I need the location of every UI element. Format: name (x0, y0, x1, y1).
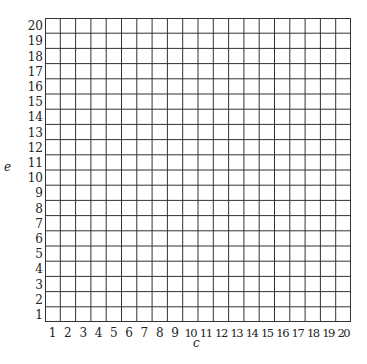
x-tick-label: 11 (198, 326, 213, 340)
x-tick-label: 17 (290, 326, 305, 340)
y-tick-label: 20 (23, 19, 43, 34)
y-tick-label: 4 (23, 262, 43, 277)
y-tick-label: 13 (23, 126, 43, 141)
y-tick-label: 2 (23, 293, 43, 308)
y-tick-label: 10 (23, 171, 43, 186)
x-tick-label: 13 (229, 326, 244, 340)
x-tick-label: 15 (259, 326, 274, 340)
y-tick-label: 5 (23, 247, 43, 262)
x-tick-label: 14 (244, 326, 259, 340)
y-tick-label: 14 (23, 110, 43, 125)
coordinate-grid (45, 18, 351, 322)
y-tick-label: 9 (23, 186, 43, 201)
x-tick-label: 7 (137, 326, 152, 340)
y-tick-label: 18 (23, 50, 43, 65)
x-axis-title: c (193, 336, 200, 350)
y-tick-label: 12 (23, 141, 43, 156)
x-tick-label: 5 (106, 326, 121, 340)
x-tick-label: 18 (305, 326, 320, 340)
x-tick-label: 12 (213, 326, 228, 340)
x-tick-label: 3 (76, 326, 91, 340)
y-tick-label: 1 (23, 308, 43, 323)
x-tick-label: 4 (91, 326, 106, 340)
x-tick-label: 16 (275, 326, 290, 340)
x-tick-label: 6 (122, 326, 137, 340)
x-tick-label: 20 (336, 326, 351, 340)
y-tick-label: 11 (23, 156, 43, 171)
y-tick-label: 16 (23, 80, 43, 95)
x-tick-label: 8 (152, 326, 167, 340)
x-tick-label: 1 (45, 326, 60, 340)
x-tick-label: 19 (321, 326, 336, 340)
y-tick-label: 8 (23, 202, 43, 217)
x-tick-label: 9 (168, 326, 183, 340)
y-axis-title: e (4, 160, 11, 174)
y-tick-label: 3 (23, 278, 43, 293)
y-tick-label: 19 (23, 34, 43, 49)
x-tick-label: 2 (60, 326, 75, 340)
y-tick-label: 17 (23, 65, 43, 80)
y-tick-label: 7 (23, 217, 43, 232)
y-tick-label: 6 (23, 232, 43, 247)
y-tick-label: 15 (23, 95, 43, 110)
